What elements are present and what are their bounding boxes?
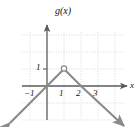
x-tick-label-3: 3: [93, 89, 98, 98]
function-left-branch: [10, 69, 64, 123]
open-circle-marker: [61, 66, 66, 71]
x-tick-label-1: 1: [59, 89, 64, 98]
function-label: g(x): [55, 6, 71, 16]
x-tick-label-minus-1: −1: [24, 89, 35, 98]
graph-canvas: [0, 0, 140, 127]
x-tick-label-2: 2: [76, 89, 81, 98]
y-tick-label-1: 1: [36, 63, 41, 72]
graph-figure: g(x) x 1 −1 1 2 3: [0, 0, 140, 127]
x-axis-label: x: [130, 81, 134, 90]
grid-lines: [22, 32, 125, 120]
